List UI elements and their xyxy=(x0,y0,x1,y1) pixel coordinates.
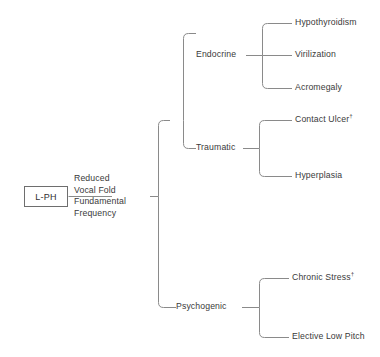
root-stem-label: Reduced Vocal Fold Fundamental Frequency xyxy=(74,173,126,219)
leaf-label-hyperplasia: Hyperplasia xyxy=(295,170,342,182)
leaf-label-elective-low-pitch: Elective Low Pitch xyxy=(292,331,365,343)
bracket-acromegaly xyxy=(263,56,293,89)
footnote-marker: † xyxy=(349,112,353,119)
root-node-box: L-PH xyxy=(24,186,68,207)
leaf-label-acromegaly: Acromegaly xyxy=(295,82,342,94)
leaf-label-chronic-stress: Chronic Stress† xyxy=(292,272,354,284)
bracket-hyperplasia xyxy=(260,149,293,177)
bracket-hypothyroidism xyxy=(263,24,293,56)
hierarchy-diagram: L-PH Reduced Vocal Fold Fundamental Freq… xyxy=(0,0,380,357)
subtrunk-to-traumatic xyxy=(184,121,197,149)
leaf-label-hypothyroidism: Hypothyroidism xyxy=(295,17,357,29)
bracket-contact-ulcer xyxy=(260,121,293,149)
bracket-elective-low-pitch xyxy=(260,308,290,338)
trunk-down-to-psychogenic xyxy=(159,197,177,308)
branch-label-traumatic: Traumatic xyxy=(196,142,235,154)
bracket-chronic-stress xyxy=(260,279,290,308)
root-node-label: L-PH xyxy=(35,192,56,202)
subtrunk-to-endocrine xyxy=(184,34,197,121)
branch-label-endocrine: Endocrine xyxy=(196,49,236,61)
branch-label-psychogenic: Psychogenic xyxy=(176,301,227,313)
footnote-marker: † xyxy=(351,270,355,277)
leaf-label-virilization: Virilization xyxy=(295,49,336,61)
leaf-label-contact-ulcer: Contact Ulcer† xyxy=(295,114,353,126)
trunk-up-to-subtrunk xyxy=(159,121,171,197)
